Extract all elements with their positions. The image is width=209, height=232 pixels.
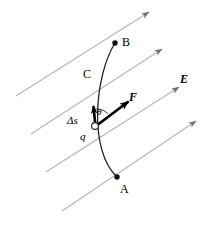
label-point-b: B — [122, 36, 130, 48]
field-line-1 — [16, 12, 149, 96]
field-line-2 — [31, 49, 162, 134]
charge-q-marker — [92, 123, 99, 130]
point-a-marker — [114, 174, 119, 179]
field-line-3 — [46, 87, 179, 172]
label-field-e: E — [180, 73, 188, 85]
label-path-c: C — [83, 68, 91, 80]
charge-marker-group — [92, 123, 99, 130]
physics-figure: A B C E F Δs q θ — [0, 0, 209, 232]
label-charge-q: q — [80, 131, 86, 142]
point-b-marker — [112, 40, 117, 45]
label-displacement-delta-s: Δs — [67, 115, 78, 126]
figure-canvas — [0, 0, 209, 232]
label-point-a: A — [120, 183, 129, 195]
electric-field-lines — [16, 12, 196, 211]
label-angle-theta: θ — [97, 108, 101, 117]
label-force-f: F — [129, 91, 137, 103]
